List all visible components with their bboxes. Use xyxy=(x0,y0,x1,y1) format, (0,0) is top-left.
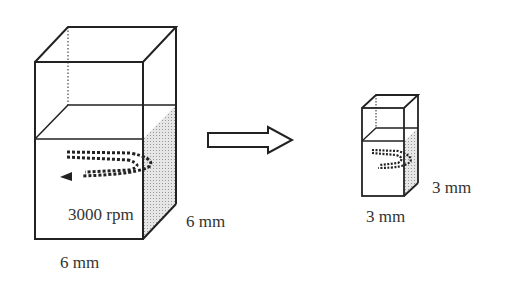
scale-arrow-icon xyxy=(208,127,292,153)
large-depth-label: 6 mm xyxy=(186,213,225,230)
large-width-label: 6 mm xyxy=(60,254,99,271)
small-container xyxy=(362,95,418,196)
large-speed-label: 3000 rpm xyxy=(66,206,136,223)
large-flow-pattern xyxy=(67,152,151,176)
scale-down-diagram: 3000 rpm 6 mm 6 mm 3 mm 3 mm xyxy=(0,0,509,281)
diagram-graphics xyxy=(0,0,509,281)
small-depth-label: 3 mm xyxy=(432,179,471,196)
small-width-label: 3 mm xyxy=(366,208,405,225)
large-flow-arrowhead xyxy=(60,172,72,181)
large-side-shade xyxy=(143,105,176,239)
